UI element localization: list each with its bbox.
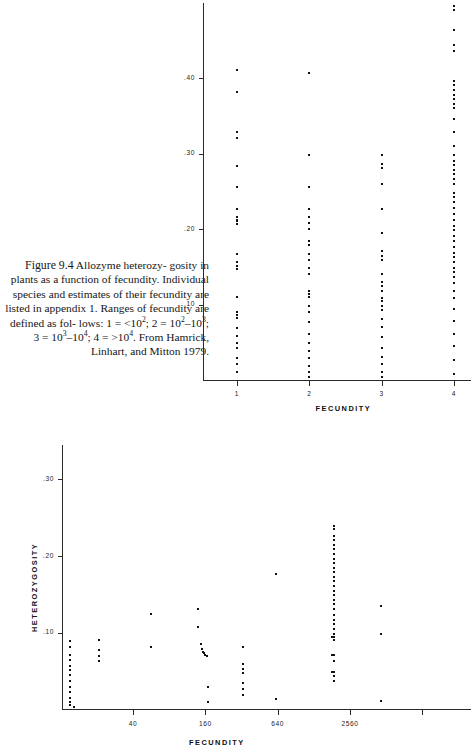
data-point [381, 154, 383, 156]
data-point [381, 281, 383, 283]
data-point [333, 585, 335, 587]
data-point [381, 163, 383, 165]
data-point [69, 659, 71, 661]
data-point [308, 350, 310, 352]
data-point [453, 246, 455, 248]
top-chart-y-axis [203, 3, 204, 381]
data-point [453, 183, 455, 185]
data-point [333, 599, 335, 601]
data-point [275, 698, 277, 700]
data-point [236, 223, 238, 225]
data-point [381, 326, 383, 328]
bottom-x-tick-minor [422, 709, 423, 715]
data-point [453, 225, 455, 227]
data-point [333, 567, 335, 569]
data-point [381, 347, 383, 349]
data-point [380, 633, 382, 635]
data-point [381, 250, 383, 252]
data-point [381, 183, 383, 185]
data-point [200, 643, 202, 645]
data-point [333, 558, 335, 560]
data-point [453, 50, 455, 52]
data-point [150, 646, 152, 648]
data-point [381, 290, 383, 292]
data-point [308, 72, 310, 74]
data-point [197, 608, 199, 610]
data-point [333, 553, 335, 555]
data-point [453, 297, 455, 299]
top-x-tick-label: 1 [225, 390, 249, 397]
data-point [453, 320, 455, 322]
data-point [453, 229, 455, 231]
data-point [453, 164, 455, 166]
data-point [333, 623, 335, 625]
data-point [308, 357, 310, 359]
data-point [381, 255, 383, 257]
top-x-tick [382, 380, 383, 386]
data-point [236, 347, 238, 349]
data-point [308, 259, 310, 261]
data-point [333, 660, 335, 662]
data-point [98, 655, 100, 657]
top-x-tick-label: 4 [442, 390, 466, 397]
data-point [308, 244, 310, 246]
data-point [98, 660, 100, 662]
data-point [207, 701, 209, 703]
data-point [69, 680, 71, 682]
data-point [453, 9, 455, 11]
data-point [333, 639, 335, 641]
data-point [381, 305, 383, 307]
data-point [308, 228, 310, 230]
data-point [381, 232, 383, 234]
data-point [69, 701, 71, 703]
bottom-x-tick-label: 40 [117, 720, 149, 727]
data-point [333, 603, 335, 605]
data-point [331, 671, 333, 673]
data-point [236, 220, 238, 222]
data-point [333, 544, 335, 546]
data-point [242, 694, 244, 696]
data-point [453, 267, 455, 269]
top-x-tick [237, 380, 238, 386]
data-point [381, 285, 383, 287]
data-point [453, 235, 455, 237]
data-point [333, 680, 335, 682]
data-point [308, 371, 310, 373]
data-point [381, 167, 383, 169]
data-point [236, 253, 238, 255]
data-point [453, 256, 455, 258]
data-point [333, 636, 335, 638]
data-point [207, 686, 209, 688]
data-point [381, 273, 383, 275]
data-point [333, 539, 335, 541]
data-point [381, 371, 383, 373]
top-y-tick-label: .20 [172, 225, 195, 232]
bottom-x-tick-label: 640 [262, 720, 294, 727]
bottom-x-tick-label: 160 [189, 720, 221, 727]
data-point [69, 665, 71, 667]
data-point [381, 297, 383, 299]
figure-page: Figure 9.4 Allozyme heterozy- gosity in … [0, 0, 473, 756]
top-x-tick [309, 380, 310, 386]
top-y-tick-label: .10 [172, 300, 195, 307]
data-point [453, 169, 455, 171]
data-point [453, 89, 455, 91]
data-point [453, 201, 455, 203]
bottom-chart-y-axis [62, 445, 63, 710]
data-point [236, 69, 238, 71]
data-point [308, 154, 310, 156]
data-point [236, 265, 238, 267]
data-point [69, 646, 71, 648]
data-point [453, 333, 455, 335]
bottom-chart-x-axis [62, 709, 471, 710]
data-point [333, 525, 335, 527]
top-y-tick-label: .40 [172, 74, 195, 81]
data-point [453, 282, 455, 284]
data-point [308, 273, 310, 275]
data-point [453, 118, 455, 120]
bottom-x-tick [133, 709, 134, 715]
data-point [453, 359, 455, 361]
data-point [453, 290, 455, 292]
top-y-tick-label: .30 [172, 149, 195, 156]
top-x-tick-label: 3 [370, 390, 394, 397]
